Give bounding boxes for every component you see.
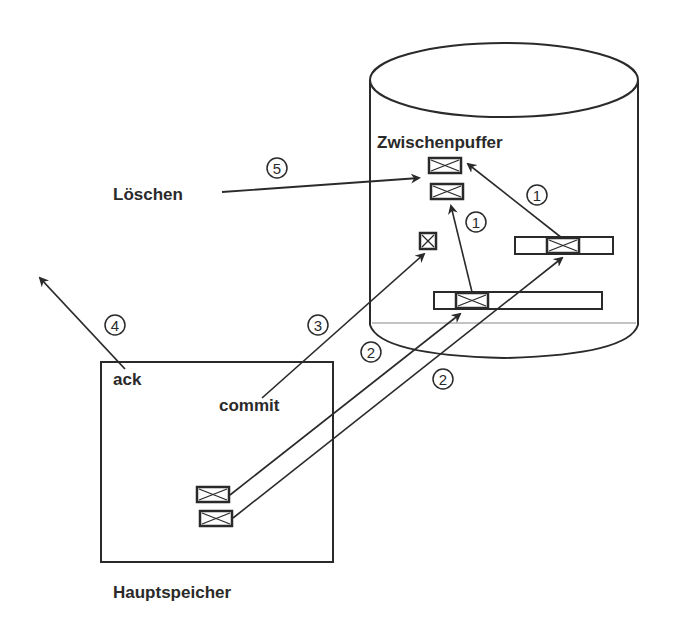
commit-label: commit bbox=[219, 396, 280, 415]
step-3-marker: 3 bbox=[308, 315, 328, 335]
delete-label: Löschen bbox=[113, 185, 183, 204]
svg-text:2: 2 bbox=[439, 371, 447, 388]
buffer-cylinder bbox=[370, 43, 638, 358]
step-1-marker: 1 bbox=[527, 185, 547, 205]
step3-arrow bbox=[262, 254, 424, 398]
db-page-right bbox=[515, 237, 613, 254]
delete-arrow bbox=[222, 178, 419, 192]
db-page-lower bbox=[434, 292, 602, 309]
step-2-marker: 2 bbox=[433, 369, 453, 389]
buffer-label: Zwischenpuffer bbox=[377, 133, 503, 152]
svg-text:4: 4 bbox=[111, 317, 119, 334]
svg-text:1: 1 bbox=[533, 187, 541, 204]
svg-text:2: 2 bbox=[367, 344, 375, 361]
step-1-marker: 1 bbox=[466, 212, 486, 232]
buffer-entry-icon bbox=[431, 184, 463, 199]
step2-arrow bbox=[233, 258, 562, 518]
page-entry-icon bbox=[456, 293, 488, 308]
ack-label: ack bbox=[113, 370, 142, 389]
step-2-marker: 2 bbox=[361, 342, 381, 362]
page-entry-icon bbox=[547, 238, 579, 253]
step-4-marker: 4 bbox=[105, 315, 125, 335]
memory-entry-icon bbox=[200, 511, 232, 526]
commit-record-icon bbox=[420, 233, 436, 249]
diagram-canvas: Zwischenpuffer Löschen ack commit Haupts… bbox=[0, 0, 675, 626]
svg-text:5: 5 bbox=[273, 160, 281, 177]
memory-entry-icon bbox=[197, 487, 229, 502]
svg-text:1: 1 bbox=[472, 214, 480, 231]
main-memory-box bbox=[101, 362, 333, 562]
svg-text:3: 3 bbox=[314, 317, 322, 334]
buffer-entry-icon bbox=[429, 158, 461, 173]
memory-label: Hauptspeicher bbox=[113, 583, 231, 602]
step-5-marker: 5 bbox=[267, 158, 287, 178]
